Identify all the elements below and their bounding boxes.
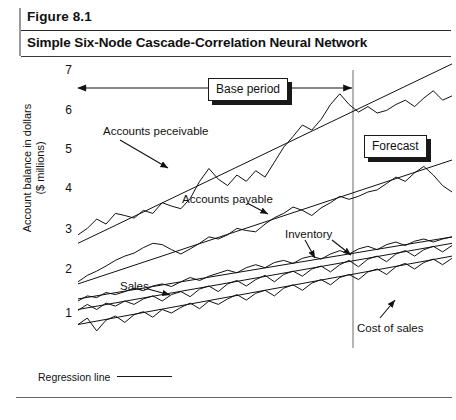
regression-line — [78, 160, 452, 284]
leader-sales — [148, 289, 170, 295]
annotation-cost-of-sales: Cost of sales — [357, 323, 423, 335]
series-curve — [78, 246, 452, 311]
figure-bottom-rule — [16, 397, 452, 398]
legend-regression-swatch — [117, 376, 172, 377]
figure-container: Figure 8.1 Simple Six-Node Cascade-Corre… — [0, 0, 456, 420]
leader-inventory-left — [305, 240, 315, 258]
leader-cost-of-sales — [380, 300, 395, 318]
leader-accounts-receivable — [120, 140, 168, 168]
base-period-callout: Base period — [208, 78, 288, 101]
series-curve — [78, 91, 452, 235]
annotation-sales: Sales — [120, 281, 149, 293]
chart-plot-area — [0, 0, 456, 420]
annotation-accounts-receivable: Accounts peceivable — [103, 126, 208, 138]
series-curve — [78, 166, 452, 281]
series-curve — [78, 258, 452, 331]
annotation-accounts-payable: Accounts payable — [182, 194, 273, 206]
legend-regression-label: Regression line — [38, 371, 110, 383]
forecast-callout: Forecast — [364, 135, 427, 158]
annotation-inventory: Inventory — [285, 229, 332, 241]
